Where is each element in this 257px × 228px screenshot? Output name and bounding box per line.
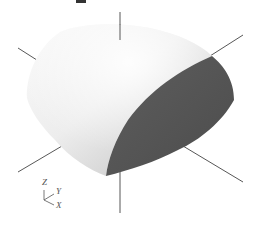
triad-icon xyxy=(0,0,257,228)
figure-canvas: Z Y X xyxy=(0,0,257,228)
